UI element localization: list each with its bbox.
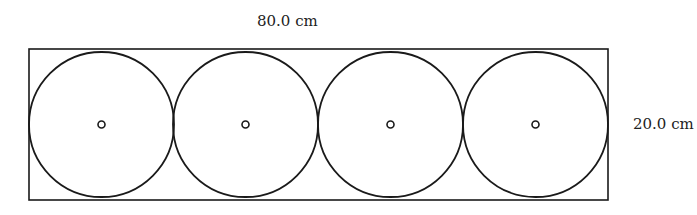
center-marker-4 xyxy=(532,121,539,128)
center-marker-2 xyxy=(242,121,249,128)
diagram-canvas xyxy=(0,0,697,215)
center-marker-3 xyxy=(387,121,394,128)
center-marker-1 xyxy=(98,121,105,128)
circles-group xyxy=(29,52,608,197)
height-dimension-label: 20.0 cm xyxy=(633,115,694,133)
width-dimension-label: 80.0 cm xyxy=(257,12,318,30)
